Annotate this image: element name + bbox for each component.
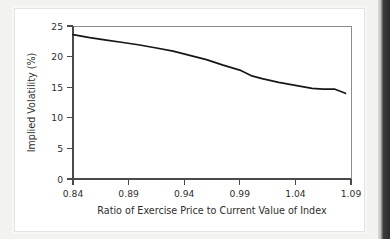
x-tick-label-1.09: 1.09 bbox=[341, 188, 362, 199]
x-tick-label-0.84: 0.84 bbox=[63, 188, 84, 199]
figure-card: 25 20 15 10 5 0 Implied Volatility (%) 0… bbox=[14, 8, 365, 232]
x-tick-label-0.99: 0.99 bbox=[230, 188, 251, 199]
plot-frame bbox=[73, 26, 351, 179]
x-axis: 0.84 0.89 0.94 0.99 1.04 1.09 Ratio of E… bbox=[63, 179, 362, 216]
y-tick-label-0: 0 bbox=[57, 174, 63, 185]
page-edge-gutter bbox=[378, 0, 390, 239]
y-axis: 25 20 15 10 5 0 Implied Volatility (%) bbox=[26, 21, 73, 185]
volatility-smile-line bbox=[73, 35, 345, 94]
x-tick-label-1.04: 1.04 bbox=[285, 188, 306, 199]
x-tick-label-0.89: 0.89 bbox=[118, 188, 139, 199]
y-axis-title: Implied Volatility (%) bbox=[26, 53, 37, 153]
implied-volatility-chart: 25 20 15 10 5 0 Implied Volatility (%) 0… bbox=[15, 9, 364, 231]
y-tick-label-10: 10 bbox=[51, 112, 63, 123]
y-tick-label-15: 15 bbox=[51, 82, 63, 93]
x-tick-label-0.94: 0.94 bbox=[174, 188, 195, 199]
page-root: 25 20 15 10 5 0 Implied Volatility (%) 0… bbox=[0, 0, 390, 239]
x-axis-title: Ratio of Exercise Price to Current Value… bbox=[97, 205, 327, 216]
y-tick-label-25: 25 bbox=[51, 21, 63, 32]
y-tick-label-20: 20 bbox=[51, 51, 63, 62]
y-tick-label-5: 5 bbox=[57, 143, 63, 154]
